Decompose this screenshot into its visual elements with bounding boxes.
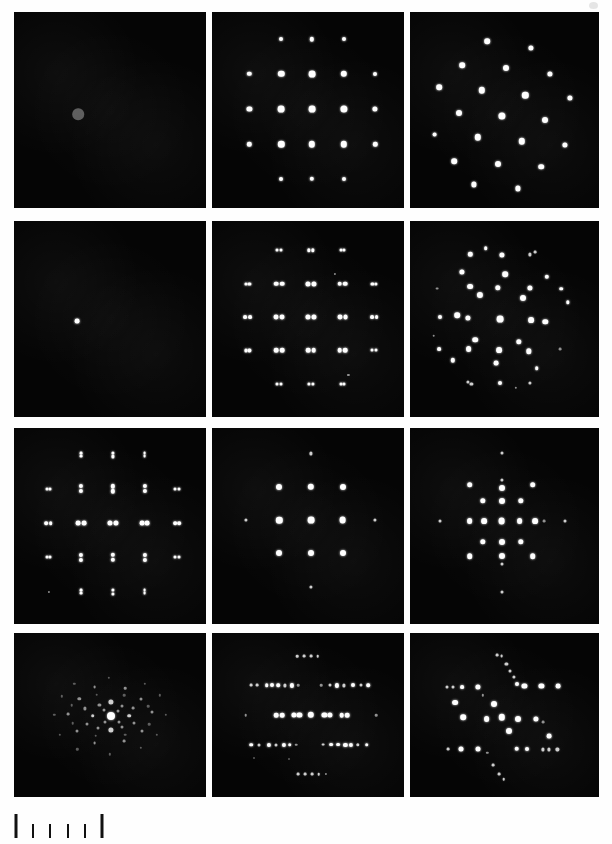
diffraction-spot [111, 588, 114, 591]
diffraction-spot [475, 134, 481, 140]
diffraction-spot [340, 71, 346, 77]
scale-tick-minor [84, 824, 86, 838]
diffraction-spot [308, 484, 314, 490]
diffraction-panel-p4 [14, 221, 206, 417]
diffraction-spot [456, 110, 462, 116]
diffraction-spot [107, 712, 115, 720]
diffraction-spot [495, 285, 500, 290]
diffraction-spot [375, 282, 378, 285]
diffraction-spot [562, 143, 567, 148]
diffraction-spot [566, 301, 569, 304]
diffraction-spot [140, 747, 142, 749]
diffraction-spot [274, 348, 279, 353]
diffraction-spot [445, 686, 448, 689]
diffraction-spot [518, 498, 523, 503]
diffraction-spot [127, 714, 131, 718]
diffraction-spot [308, 106, 315, 113]
diffraction-spot [108, 727, 113, 732]
diffraction-spot [59, 733, 61, 735]
diffraction-spot [496, 654, 499, 657]
diffraction-spot [481, 518, 487, 524]
diffraction-spot [297, 684, 300, 687]
diffraction-spot [265, 684, 269, 688]
diffraction-spot [517, 518, 523, 524]
scale-tick-minor [49, 824, 51, 838]
diffraction-spot [542, 748, 545, 751]
diffraction-spot [250, 684, 253, 687]
diffraction-spot [276, 382, 279, 385]
diffraction-spot [253, 757, 255, 759]
diffraction-panel-p9 [410, 428, 599, 624]
diffraction-spot [451, 686, 454, 689]
diffraction-spot [470, 382, 473, 385]
diffraction-spot [494, 361, 499, 366]
diffraction-spot [518, 138, 524, 144]
diffraction-spot [500, 563, 503, 566]
diffraction-spot [139, 521, 144, 526]
diffraction-spot [459, 747, 464, 752]
diffraction-spot [472, 337, 478, 343]
diffraction-spot [466, 346, 472, 352]
diffraction-spot [375, 349, 378, 352]
diffraction-spot [468, 284, 474, 290]
diffraction-spot [371, 349, 374, 352]
diffraction-spot [432, 132, 437, 137]
diffraction-spot [459, 269, 464, 274]
diffraction-spot [308, 70, 315, 77]
diffraction-spot [53, 714, 55, 716]
diffraction-panel-p6 [410, 221, 599, 417]
diffraction-spot [436, 85, 442, 91]
diffraction-spot [468, 252, 472, 256]
diffraction-spot [336, 743, 340, 747]
page-corner-mark [589, 2, 598, 9]
diffraction-spot [345, 713, 350, 718]
diffraction-spot [375, 714, 378, 717]
diffraction-spot [250, 743, 254, 747]
diffraction-spot [120, 726, 123, 729]
diffraction-spot [340, 105, 347, 112]
diffraction-spot [148, 723, 151, 726]
diffraction-panel-p2 [212, 12, 404, 208]
diffraction-spot [108, 677, 110, 679]
diffraction-spot [373, 142, 377, 146]
diffraction-spot [111, 455, 114, 458]
scale-bar [16, 812, 102, 838]
diffraction-spot [142, 558, 146, 562]
diffraction-spot [547, 71, 552, 76]
diffraction-spot [329, 684, 332, 687]
diffraction-spot [124, 687, 127, 690]
diffraction-spot [98, 704, 101, 707]
diffraction-spot [375, 315, 379, 319]
diffraction-spot [452, 700, 458, 706]
diffraction-spot [495, 161, 501, 167]
diffraction-spot [500, 452, 503, 455]
diffraction-spot [475, 685, 480, 690]
diffraction-spot [506, 728, 512, 734]
diffraction-spot [142, 484, 146, 488]
diffraction-spot [310, 773, 313, 776]
diffraction-spot [97, 727, 100, 730]
diffraction-spot [274, 281, 279, 286]
diffraction-spot [563, 520, 566, 523]
diffraction-spot [45, 487, 48, 490]
diffraction-spot [516, 339, 521, 344]
diffraction-spot [499, 553, 505, 559]
diffraction-spot [514, 746, 519, 751]
diffraction-spot [498, 112, 505, 119]
diffraction-spot [132, 707, 135, 710]
diffraction-spot [156, 733, 158, 735]
diffraction-spot [173, 521, 177, 525]
diffraction-spot [339, 517, 346, 524]
diffraction-spot [305, 314, 310, 319]
diffraction-spot [310, 37, 314, 41]
diffraction-spot [309, 585, 312, 588]
diffraction-spot [295, 743, 298, 746]
diffraction-spot [78, 697, 81, 700]
diffraction-spot [177, 487, 180, 490]
diffraction-spot [343, 742, 347, 746]
diffraction-spot [309, 452, 312, 455]
diffraction-spot [297, 712, 302, 717]
diffraction-spot [559, 287, 563, 291]
diffraction-spot [275, 743, 278, 746]
diffraction-spot [140, 729, 143, 732]
